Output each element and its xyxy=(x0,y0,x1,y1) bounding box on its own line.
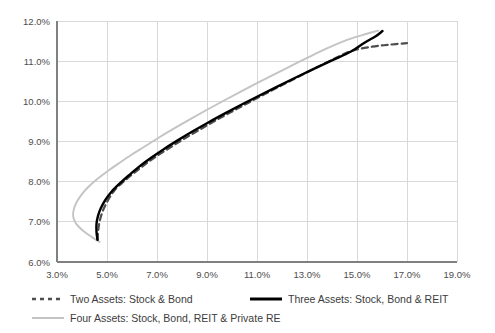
x-axis-tick-label: 15.0% xyxy=(344,269,371,280)
chart-background xyxy=(0,0,495,333)
legend-label: Three Assets: Stock, Bond & REIT xyxy=(288,293,449,305)
y-axis-tick-label: 11.0% xyxy=(24,56,51,67)
x-axis-tick-label: 11.0% xyxy=(244,269,271,280)
chart-canvas: 6.0%7.0%8.0%9.0%10.0%11.0%12.0% 3.0%5.0%… xyxy=(0,0,495,333)
y-axis-tick-label: 6.0% xyxy=(28,257,50,268)
y-axis-tick-label: 10.0% xyxy=(23,96,50,107)
x-axis-tick-label: 17.0% xyxy=(394,269,421,280)
x-axis-tick-labels: 3.0%5.0%7.0%9.0%11.0%13.0%15.0%17.0%19.0… xyxy=(46,269,471,280)
legend-label: Two Assets: Stock & Bond xyxy=(70,293,193,305)
x-axis-tick-label: 5.0% xyxy=(96,269,118,280)
efficient-frontier-chart: 6.0%7.0%8.0%9.0%10.0%11.0%12.0% 3.0%5.0%… xyxy=(0,0,495,333)
legend-item[interactable]: Four Assets: Stock, Bond, REIT & Private… xyxy=(32,312,280,324)
y-axis-tick-label: 7.0% xyxy=(28,216,50,227)
y-axis-tick-label: 12.0% xyxy=(23,16,50,27)
x-axis-tick-label: 13.0% xyxy=(294,269,321,280)
y-axis-tick-label: 9.0% xyxy=(28,136,50,147)
x-axis-tick-label: 3.0% xyxy=(46,269,68,280)
x-axis-tick-label: 19.0% xyxy=(444,269,471,280)
x-axis-tick-label: 7.0% xyxy=(146,269,168,280)
x-axis-tick-label: 9.0% xyxy=(196,269,218,280)
y-axis-tick-label: 8.0% xyxy=(28,176,50,187)
legend-label: Four Assets: Stock, Bond, REIT & Private… xyxy=(70,312,280,324)
